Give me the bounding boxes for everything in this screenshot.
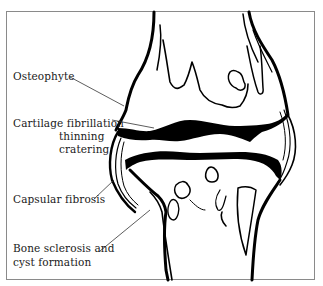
label-capsular-fibrosis: Capsular fibrosis xyxy=(13,193,105,206)
femur xyxy=(116,12,288,130)
tibial-cartilage xyxy=(125,151,282,180)
label-osteophyte: Osteophyte xyxy=(13,70,75,83)
femoral-cartilage xyxy=(118,112,289,142)
label-cartilage-cratering: cratering xyxy=(59,143,109,156)
label-cartilage-thinning: thinning xyxy=(59,130,105,143)
tibia xyxy=(130,167,280,280)
label-cartilage-fibrillation: Cartilage fibrillation xyxy=(13,117,124,130)
leader-lines xyxy=(70,77,154,251)
label-bone-sclerosis: Bone sclerosis and xyxy=(13,242,115,255)
label-cyst-formation: cyst formation xyxy=(13,256,91,269)
